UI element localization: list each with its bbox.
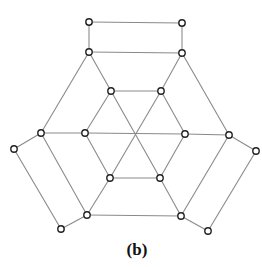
edge-I2-I5	[110, 91, 161, 178]
edge-I3-I5	[85, 133, 110, 178]
edge-I4-R1	[185, 134, 229, 135]
edge-I6-BR	[160, 178, 181, 216]
node-RR	[253, 148, 259, 154]
edge-RR-RB	[208, 151, 256, 231]
figure-caption: (b)	[0, 240, 262, 260]
edge-I1-I3	[85, 91, 111, 133]
node-A	[86, 19, 92, 25]
edge-BL-BR	[87, 215, 181, 216]
edge-A-B	[89, 22, 182, 23]
node-I2	[158, 88, 164, 94]
edge-C-L1	[41, 52, 89, 133]
node-D	[179, 50, 185, 56]
edge-R1-BR	[181, 135, 229, 216]
edge-RB-BR	[181, 216, 208, 231]
edge-R1-RR	[229, 135, 256, 151]
node-B	[179, 20, 185, 26]
edge-D-R1	[182, 53, 229, 135]
graph-diagram	[0, 0, 262, 267]
node-I1	[108, 88, 114, 94]
node-I3	[82, 130, 88, 136]
edge-I2-I4	[161, 91, 185, 134]
graph-edges	[14, 22, 256, 231]
node-I4	[182, 131, 188, 137]
edge-L1-LL	[14, 133, 41, 149]
node-LL	[11, 146, 17, 152]
node-BL	[84, 212, 90, 218]
edge-C-D	[89, 52, 182, 53]
edge-LL-LB	[14, 149, 61, 229]
node-BR	[178, 213, 184, 219]
node-L1	[38, 130, 44, 136]
edge-I3-I4	[85, 133, 185, 134]
edge-I5-BL	[87, 178, 110, 215]
edge-I4-I6	[160, 134, 185, 178]
edge-L1-BL	[41, 133, 87, 215]
node-LB	[58, 226, 64, 232]
graph-nodes	[11, 19, 259, 234]
edge-D-I2	[161, 53, 182, 91]
node-I5	[107, 175, 113, 181]
node-I6	[157, 175, 163, 181]
edge-C-I1	[89, 52, 111, 91]
node-R1	[226, 132, 232, 138]
edge-LB-BL	[61, 215, 87, 229]
node-C	[86, 49, 92, 55]
node-RB	[205, 228, 211, 234]
